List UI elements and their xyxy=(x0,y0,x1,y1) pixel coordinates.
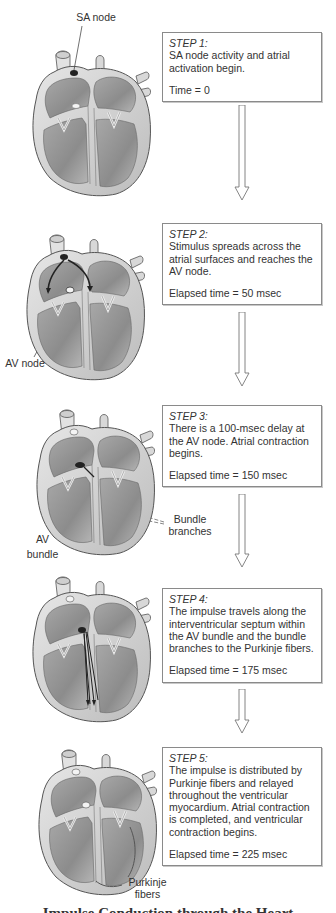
step-3-box: STEP 3: There is a 100-msec delay at the… xyxy=(162,405,322,487)
figure-caption: Impulse Conduction through the Heart xyxy=(0,905,336,913)
step-1-title: STEP 1: xyxy=(169,37,316,49)
step-1-time: Time = 0 xyxy=(169,84,316,96)
step-1-description: SA node activity and atrial activation b… xyxy=(169,49,316,74)
step-2-time: Elapsed time = 50 msec xyxy=(169,287,316,299)
heart-illustration-step-4 xyxy=(24,572,159,727)
step-2-box: STEP 2: Stimulus spreads across the atri… xyxy=(162,223,322,305)
purkinje-fibers-label: Purkinje fibers xyxy=(120,876,175,900)
step-3-title: STEP 3: xyxy=(169,410,316,422)
down-arrow-1-icon xyxy=(234,105,250,201)
step-2-description: Stimulus spreads across the atrial surfa… xyxy=(169,240,316,277)
av-bundle-label: AV bundle xyxy=(20,533,65,560)
step-5-title: STEP 5: xyxy=(169,752,316,764)
down-arrow-2-icon xyxy=(234,312,250,387)
step-4-time: Elapsed time = 175 msec xyxy=(169,664,316,676)
step-5-box: STEP 5: The impulse is distributed by Pu… xyxy=(162,747,322,866)
step-2-title: STEP 2: xyxy=(169,228,316,240)
av-node-label: AV node xyxy=(0,357,50,369)
step-4-description: The impulse travels along the interventr… xyxy=(169,605,316,654)
step-5-time: Elapsed time = 225 msec xyxy=(169,848,316,860)
step-4-box: STEP 4: The impulse travels along the in… xyxy=(162,588,322,683)
step-3-description: There is a 100-msec delay at the AV node… xyxy=(169,422,316,459)
step-1-box: STEP 1: SA node activity and atrial acti… xyxy=(162,32,322,102)
av-node-marker xyxy=(66,287,74,293)
down-arrow-3-icon xyxy=(234,494,250,568)
bundle-branches-label: Bundle branches xyxy=(160,513,220,537)
step-3-time: Elapsed time = 150 msec xyxy=(169,469,316,481)
step-5-description: The impulse is distributed by Purkinje f… xyxy=(169,764,316,838)
step-4-title: STEP 4: xyxy=(169,593,316,605)
down-arrow-4-icon xyxy=(234,689,250,734)
